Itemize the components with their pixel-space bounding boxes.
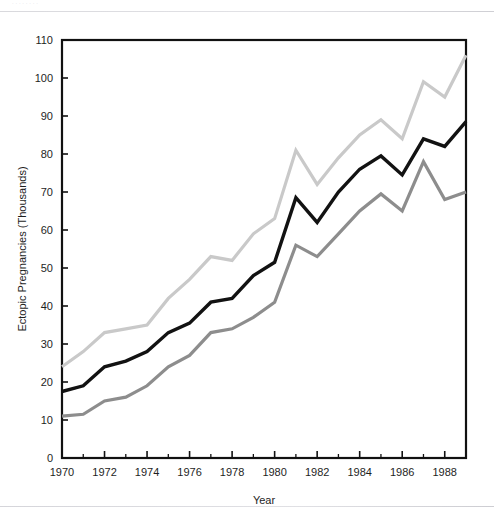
- y-tick-label: 30: [41, 338, 53, 350]
- x-tick-label: 1976: [177, 466, 201, 478]
- x-tick-label: 1986: [390, 466, 414, 478]
- y-tick-label: 40: [41, 300, 53, 312]
- ectopic-pregnancies-chart: 0102030405060708090100110 19701972197419…: [0, 14, 494, 506]
- y-tick-label: 10: [41, 414, 53, 426]
- y-tick-label: 0: [47, 452, 53, 464]
- y-tick-label: 60: [41, 224, 53, 236]
- line-chart-svg: 0102030405060708090100110 19701972197419…: [0, 14, 494, 506]
- y-tick-label: 110: [35, 34, 53, 46]
- y-tick-label: 90: [41, 110, 53, 122]
- chart-page: · · · · · · · · 010203040506070809010011…: [0, 0, 494, 520]
- x-tick-label: 1982: [305, 466, 329, 478]
- x-tick-label: 1978: [220, 466, 244, 478]
- y-tick-label: 80: [41, 148, 53, 160]
- y-tick-label: 50: [41, 262, 53, 274]
- y-tick-label: 20: [41, 376, 53, 388]
- x-tick-label: 1974: [135, 466, 159, 478]
- x-tick-label: 1988: [432, 466, 456, 478]
- y-axis-title: Ectopic Pregnancies (Thousands): [16, 166, 28, 331]
- header-divider-top: [0, 11, 494, 12]
- footer-divider-bottom: [0, 506, 494, 507]
- y-tick-label: 70: [41, 186, 53, 198]
- x-tick-label: 1984: [347, 466, 371, 478]
- x-tick-label: 1970: [50, 466, 74, 478]
- x-tick-label: 1972: [92, 466, 116, 478]
- page-header-faint-text: · · · · · · · ·: [12, 0, 38, 6]
- x-axis-title: Year: [253, 494, 276, 506]
- x-tick-label: 1980: [262, 466, 286, 478]
- y-tick-label: 100: [35, 72, 53, 84]
